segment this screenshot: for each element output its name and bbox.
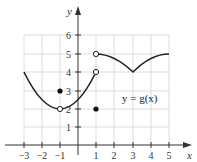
x-tick-label: 1 xyxy=(94,150,99,161)
x-axis-label: x xyxy=(186,149,192,161)
y-axis-arrow-icon xyxy=(75,6,81,15)
open-point xyxy=(57,106,62,111)
y-tick-label: 6 xyxy=(66,30,71,41)
open-point xyxy=(93,51,98,56)
y-axis-label: y xyxy=(66,5,72,17)
axes xyxy=(5,12,186,155)
x-tick-label: 2 xyxy=(112,150,117,161)
open-point xyxy=(93,69,98,74)
y-tick-label: 5 xyxy=(66,49,71,60)
x-tick-label: 4 xyxy=(149,150,154,161)
y-tick-label: 4 xyxy=(66,67,71,78)
curve-right xyxy=(96,54,169,72)
x-tick-label: −1 xyxy=(55,150,66,161)
x-axis-arrow-icon xyxy=(183,142,192,148)
x-tick-label: 3 xyxy=(131,150,136,161)
chart: −3 −2 −1 1 2 3 4 5 1 2 3 4 5 6 x y y = g… xyxy=(0,0,197,162)
function-label: y = g(x) xyxy=(122,92,158,105)
filled-point xyxy=(57,88,62,93)
x-tick-label: 5 xyxy=(167,150,172,161)
y-tick-label: 3 xyxy=(66,86,71,97)
x-tick-label: −3 xyxy=(19,150,30,161)
y-tick-label: 1 xyxy=(66,122,71,133)
x-tick-label: −2 xyxy=(37,150,48,161)
filled-point xyxy=(93,106,98,111)
